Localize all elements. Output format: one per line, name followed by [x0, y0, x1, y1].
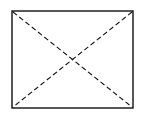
diagram-canvas [0, 0, 142, 113]
